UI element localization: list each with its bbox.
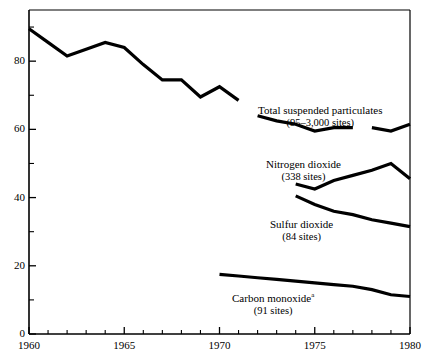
annotation-sulfur-dioxide: Sulfur dioxide (84 sites): [270, 218, 333, 243]
y-tick-label: 40: [0, 192, 25, 203]
annotation-label: Total suspended particulates: [258, 104, 382, 116]
x-tick-label: 1980: [390, 340, 426, 351]
x-tick-label: 1975: [295, 340, 335, 351]
x-tick-label: 1960: [9, 340, 49, 351]
x-axis-ticks: [29, 327, 410, 334]
annotation-sublabel: (338 sites): [266, 171, 341, 183]
y-tick-label: 20: [0, 260, 25, 271]
x-tick-label: 1965: [104, 340, 144, 351]
annotation-carbon-monoxide: Carbon monoxidea (91 sites): [232, 292, 314, 317]
y-tick-label: 60: [0, 123, 25, 134]
series-lines: [29, 29, 410, 297]
annotation-sublabel: (91 sites): [232, 305, 314, 317]
annotation-footnote-marker: a: [311, 291, 314, 299]
x-tick-label: 1970: [200, 340, 240, 351]
annotation-nitrogen-dioxide: Nitrogen dioxide (338 sites): [266, 158, 341, 183]
annotation-sublabel: (84 sites): [270, 231, 333, 243]
y-axis-ticks: [29, 27, 36, 334]
annotation-total-suspended-particulates: Total suspended particulates (95–3,000 s…: [258, 104, 382, 129]
y-tick-label: 80: [0, 55, 25, 66]
annotation-label: Sulfur dioxide: [270, 218, 333, 230]
annotation-label: Nitrogen dioxide: [266, 158, 341, 170]
annotation-sublabel: (95–3,000 sites): [258, 117, 382, 129]
annotation-label: Carbon monoxidea: [232, 292, 314, 304]
y-tick-label: 0: [0, 328, 25, 339]
